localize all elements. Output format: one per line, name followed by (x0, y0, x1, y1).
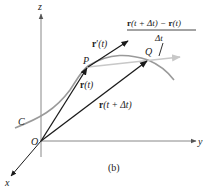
panel-label: (b) (108, 162, 120, 174)
leader-line (159, 43, 163, 56)
difference-quotient-numerator: r(t + Δt) − r(t) (127, 18, 181, 28)
vector-derivative-diagram: z y x O C P Q r′(t) r(t) r(t + Δt) r(t +… (0, 0, 207, 188)
difference-quotient-denominator: Δt (154, 33, 163, 43)
y-axis-label: y (197, 136, 203, 147)
origin-label: O (31, 136, 38, 147)
curve-label: C (18, 116, 25, 127)
z-axis-label: z (37, 1, 42, 12)
point-p-label: P (82, 55, 89, 66)
point-q-label: Q (145, 46, 153, 57)
position-vector-q-label: r(t + Δt) (99, 100, 132, 111)
tangent-vector-label: r′(t) (92, 39, 107, 50)
position-vector-p (41, 68, 87, 141)
position-vector-p-label: r(t) (80, 80, 93, 91)
x-axis-label: x (4, 177, 10, 188)
diagram-canvas: z y x O C P Q r′(t) r(t) r(t + Δt) r(t +… (0, 0, 207, 188)
